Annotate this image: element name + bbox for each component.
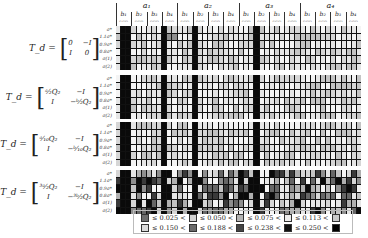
heatmap-cell xyxy=(234,83,238,90)
heatmap-cell xyxy=(239,64,243,71)
heatmap-cell xyxy=(188,49,192,56)
heatmap-cell xyxy=(147,122,151,129)
heatmap-cell xyxy=(157,90,161,97)
heatmap-cell xyxy=(152,193,156,200)
heatmap-cell xyxy=(152,200,156,207)
heatmap-cell xyxy=(188,130,192,137)
heatmap-cell xyxy=(142,98,146,105)
heatmap-cell xyxy=(311,64,315,71)
heatmap-cell xyxy=(244,178,248,185)
row-label: 1.1σ* xyxy=(86,178,112,183)
heatmap-cell xyxy=(131,170,135,177)
heatmap-cell xyxy=(167,56,171,63)
heatmap-cell xyxy=(316,185,320,192)
heatmap-cell xyxy=(203,145,207,152)
heatmap-cell xyxy=(306,122,310,129)
heatmap-cell xyxy=(352,34,356,41)
heatmap-cell xyxy=(142,113,146,120)
heatmap-cell xyxy=(219,34,223,41)
heatmap-cell xyxy=(295,113,299,120)
heatmap-cell xyxy=(213,145,217,152)
heatmap-cell xyxy=(219,130,223,137)
heatmap-cell xyxy=(295,49,299,56)
heatmap-cell xyxy=(116,185,120,192)
legend-swatch xyxy=(332,214,340,222)
heatmap-cell xyxy=(198,41,202,48)
heatmap-cell xyxy=(331,41,335,48)
heatmap-cell xyxy=(229,170,233,177)
heatmap-cell xyxy=(167,137,171,144)
heatmap-cell xyxy=(316,160,320,167)
heatmap-cell xyxy=(275,170,279,177)
heatmap-cell xyxy=(290,130,294,137)
heatmap-cell xyxy=(116,26,120,33)
heatmap-cell xyxy=(224,145,228,152)
heatmap-cell xyxy=(249,152,253,159)
subgroup-divider xyxy=(284,12,285,26)
heatmap-cell xyxy=(157,122,161,129)
heatmap-cell xyxy=(142,105,146,112)
heatmap-cell xyxy=(290,137,294,144)
heatmap-cell xyxy=(316,193,320,200)
heatmap-cell xyxy=(321,49,325,56)
heatmap-cell xyxy=(347,137,351,144)
heatmap-cell xyxy=(121,26,125,33)
heatmap-cell xyxy=(137,49,141,56)
heatmap-cell xyxy=(311,178,315,185)
heatmap-cell xyxy=(357,49,361,56)
heatmap-cell xyxy=(234,56,238,63)
heatmap-cell xyxy=(342,98,346,105)
heatmap-cell xyxy=(275,90,279,97)
heatmap-cell xyxy=(147,200,151,207)
heatmap-cell xyxy=(316,137,320,144)
heatmap-cell xyxy=(311,41,315,48)
heatmap-cell xyxy=(270,185,274,192)
heatmap-cell xyxy=(260,26,264,33)
heatmap-cell xyxy=(183,26,187,33)
heatmap-cell xyxy=(188,90,192,97)
heatmap-cell xyxy=(295,105,299,112)
heatmap-cell xyxy=(121,90,125,97)
heatmap-cell xyxy=(203,152,207,159)
heatmap-cell xyxy=(331,90,335,97)
equation-lhs: T_d = xyxy=(0,187,27,197)
heatmap-cell xyxy=(229,64,233,71)
heatmap-cell xyxy=(270,137,274,144)
heatmap-cell xyxy=(316,90,320,97)
heatmap-cell xyxy=(157,160,161,167)
heatmap-cell xyxy=(342,83,346,90)
row-label: 0.8σ* xyxy=(86,49,112,54)
heatmap-cell xyxy=(290,178,294,185)
heatmap-cell xyxy=(208,113,212,120)
heatmap-cell xyxy=(172,56,176,63)
heatmap-cell xyxy=(188,178,192,185)
heatmap-cell xyxy=(265,160,269,167)
heatmap-cell xyxy=(336,83,340,90)
heatmap-cell xyxy=(213,83,217,90)
heatmap-cell xyxy=(147,185,151,192)
heatmap-cell xyxy=(162,34,166,41)
heatmap-cell xyxy=(116,90,120,97)
heatmap-cell xyxy=(265,178,269,185)
legend: ≤ 0.025 < ≤ 0.050 < ≤ 0.075 < ≤ 0.113 < … xyxy=(133,210,353,234)
heatmap-cell xyxy=(229,130,233,137)
heatmap-cell xyxy=(290,98,294,105)
heatmap-cell xyxy=(142,122,146,129)
heatmap-cell xyxy=(357,130,361,137)
heatmap-cell xyxy=(137,122,141,129)
heatmap-cell xyxy=(142,152,146,159)
heatmap-cell xyxy=(229,113,233,120)
heatmap-cell xyxy=(342,145,346,152)
heatmap-cell xyxy=(131,41,135,48)
heatmap-cell xyxy=(157,200,161,207)
heatmap-cell xyxy=(336,130,340,137)
heatmap-cell xyxy=(254,26,258,33)
heatmap-cell xyxy=(295,98,299,105)
heatmap-cell xyxy=(203,170,207,177)
heatmap-cell xyxy=(357,41,361,48)
heatmap-cell xyxy=(295,26,299,33)
heatmap-cell xyxy=(219,137,223,144)
heatmap-cell xyxy=(336,90,340,97)
heatmap-cell xyxy=(342,160,346,167)
heatmap-cell xyxy=(147,49,151,56)
